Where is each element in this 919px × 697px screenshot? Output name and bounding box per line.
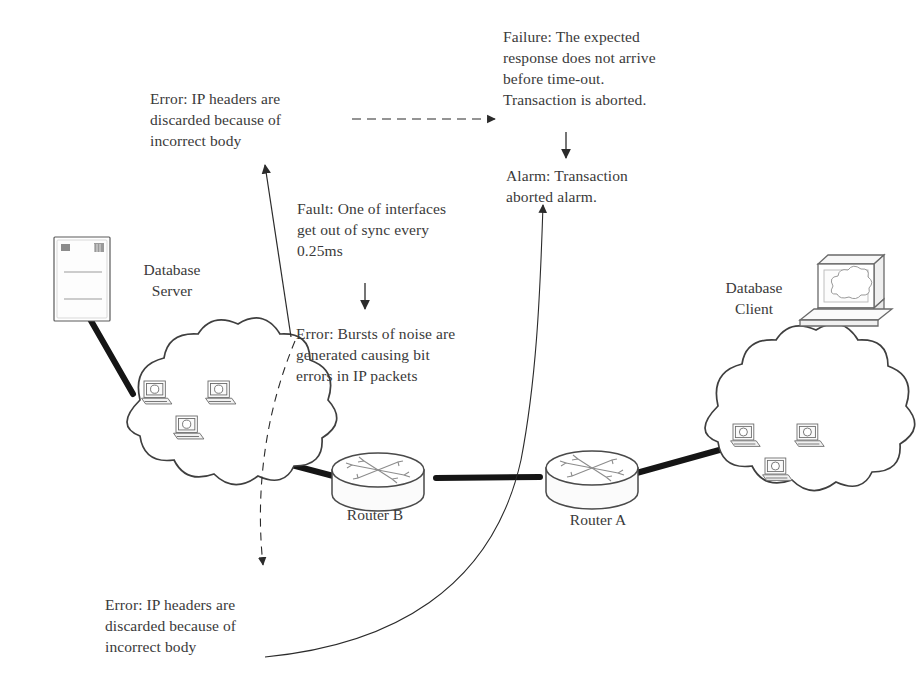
node-label-db-client: Database Client xyxy=(700,277,808,319)
node-label-router-a: Router A xyxy=(543,509,653,530)
annotation-fault: Fault: One of interfaces get out of sync… xyxy=(297,198,446,261)
connector-errormiddle-to-errortop xyxy=(265,165,291,337)
node-label-router-b: Router B xyxy=(320,504,430,525)
link-dbserver-cloudleft xyxy=(86,312,133,394)
annotation-error-middle: Error: Bursts of noise are generated cau… xyxy=(296,323,455,386)
server-tower-icon xyxy=(54,237,110,321)
diagram-canvas: Failure: The expected response does not … xyxy=(0,0,919,697)
annotation-error-bottom: Error: IP headers are discarded because … xyxy=(105,594,236,657)
diagram-artwork xyxy=(0,0,919,697)
network-cloud-icon-right xyxy=(705,324,915,491)
workstation-icon xyxy=(800,255,892,326)
link-routerb-routera xyxy=(436,477,540,478)
link-routera-cloudright xyxy=(633,449,723,474)
annotation-failure: Failure: The expected response does not … xyxy=(503,26,656,110)
router-icon-b xyxy=(332,453,424,511)
annotation-alarm: Alarm: Transaction aborted alarm. xyxy=(506,165,628,207)
router-icon-a xyxy=(546,451,638,509)
annotation-error-top: Error: IP headers are discarded because … xyxy=(150,88,281,151)
node-label-db-server: Database Server xyxy=(118,259,226,301)
